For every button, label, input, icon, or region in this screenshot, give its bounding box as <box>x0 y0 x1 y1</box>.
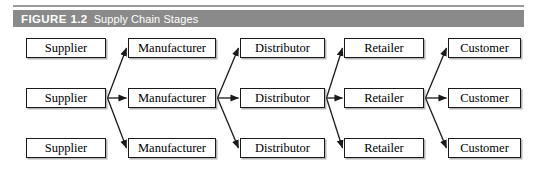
node-box-manufacturer-2: Manufacturer <box>128 88 216 108</box>
figure-container: FIGURE 1.2 Supply Chain Stages SupplierS… <box>0 0 546 175</box>
node-box-distributor-3: Distributor <box>240 138 325 158</box>
flow-arrow-retailer-to-customer-1 <box>426 48 447 98</box>
flow-arrow-retailer-to-customer-3 <box>426 98 447 148</box>
node-box-customer-3: Customer <box>448 138 521 158</box>
node-box-supplier-2: Supplier <box>26 88 106 108</box>
node-box-retailer-1: Retailer <box>344 38 424 58</box>
node-box-customer-2: Customer <box>448 88 521 108</box>
node-box-distributor-1: Distributor <box>240 38 325 58</box>
node-box-retailer-3: Retailer <box>344 138 424 158</box>
flow-arrow-distributor-to-retailer-1 <box>327 48 343 98</box>
flow-arrow-distributor-to-retailer-3 <box>327 98 343 148</box>
flow-arrow-manufacturer-to-distributor-3 <box>218 98 239 148</box>
flow-arrow-supplier-to-manufacturer-1 <box>108 48 127 98</box>
flow-arrow-manufacturer-to-distributor-1 <box>218 48 239 98</box>
node-box-supplier-3: Supplier <box>26 138 106 158</box>
node-box-manufacturer-3: Manufacturer <box>128 138 216 158</box>
node-box-retailer-2: Retailer <box>344 88 424 108</box>
node-box-supplier-1: Supplier <box>26 38 106 58</box>
node-box-customer-1: Customer <box>448 38 521 58</box>
flow-arrow-supplier-to-manufacturer-3 <box>108 98 127 148</box>
node-box-manufacturer-1: Manufacturer <box>128 38 216 58</box>
node-box-distributor-2: Distributor <box>240 88 325 108</box>
